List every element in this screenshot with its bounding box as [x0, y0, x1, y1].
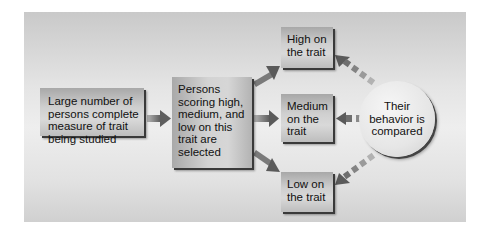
dashed-arrow-compare-to-high [335, 55, 375, 85]
arrow-start-to-select [147, 110, 171, 127]
node-label: Low on the trait [287, 178, 333, 203]
node-behavior-compared: Their behavior is compared [359, 81, 435, 157]
node-label: Large number of persons complete measure… [48, 95, 144, 145]
node-selection: Persons scoring high, medium, and low on… [172, 77, 252, 168]
node-label: Their behavior is compared [369, 100, 425, 138]
arrow-select-to-low [253, 150, 280, 172]
node-label: Persons scoring high, medium, and low on… [178, 83, 252, 158]
node-medium-on-trait: Medium on the trait [281, 94, 333, 142]
node-start-population: Large number of persons complete measure… [40, 88, 144, 136]
arrow-select-to-high [253, 66, 280, 87]
node-high-on-trait: High on the trait [281, 27, 333, 68]
node-label: High on the trait [287, 33, 333, 58]
dashed-arrow-compare-to-low [335, 153, 375, 185]
node-label: Medium on the trait [287, 100, 333, 138]
arrow-select-to-medium [254, 110, 279, 127]
node-low-on-trait: Low on the trait [281, 172, 333, 212]
